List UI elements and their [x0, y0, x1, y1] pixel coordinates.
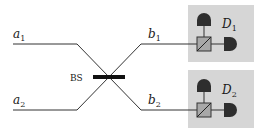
quantum-optics-diagram: a1 a2 b1 b2 BS D1 D2	[0, 0, 261, 134]
label-b1: b1	[148, 27, 161, 43]
label-b2: b2	[148, 93, 161, 109]
label-a2: a2	[13, 93, 25, 109]
label-a1: a1	[13, 27, 25, 43]
detector-box-d1	[188, 5, 254, 62]
beam-splitter-bar	[93, 75, 125, 79]
label-beam-splitter: BS	[70, 73, 83, 83]
detector-box-d2	[188, 70, 254, 128]
